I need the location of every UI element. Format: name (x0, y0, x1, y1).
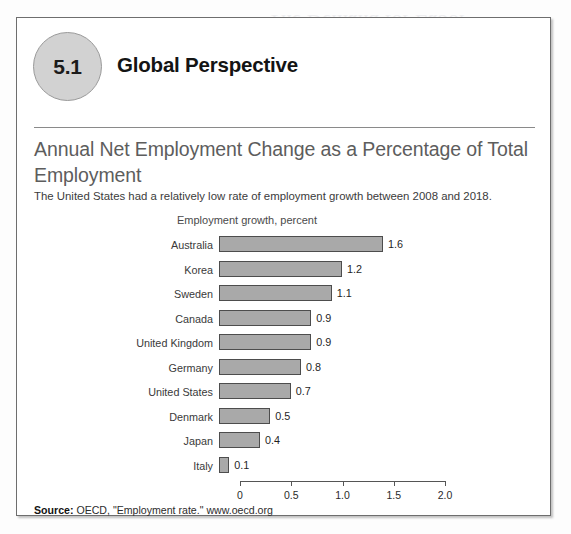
bar (219, 310, 311, 326)
bar-category-label: Denmark (17, 411, 219, 423)
bar-value-label: 0.9 (316, 310, 331, 326)
bar-category-label: United States (17, 386, 219, 398)
bar-value-label: 1.1 (337, 285, 352, 301)
bar-track: 0.8 (219, 356, 509, 381)
bar (219, 334, 311, 350)
x-axis-tick-label: 0 (237, 489, 243, 501)
bar (219, 383, 291, 399)
bar-row: Denmark0.5 (17, 405, 509, 430)
bar-value-label: 1.6 (388, 236, 403, 252)
bar-value-label: 0.8 (306, 359, 321, 375)
bar-row: Japan0.4 (17, 429, 509, 454)
bar-category-label: Japan (17, 435, 219, 447)
x-axis-tick-label: 1.0 (335, 489, 350, 501)
bar (219, 359, 301, 375)
bar-track: 1.2 (219, 258, 509, 283)
source-line: Source: OECD, "Employment rate." www.oec… (34, 504, 273, 516)
bar-value-label: 0.4 (265, 432, 280, 448)
bar-value-label: 0.1 (234, 457, 249, 473)
bar (219, 261, 342, 277)
bar-category-label: Germany (17, 362, 219, 374)
figure-subtitle: The United States had a relatively low r… (34, 189, 539, 204)
chart-axis-label: Employment growth, percent (17, 214, 477, 226)
bar (219, 408, 270, 424)
bar-track: 0.7 (219, 380, 509, 405)
bar-row: Australia1.6 (17, 233, 509, 258)
bar (219, 457, 229, 473)
figure-box: 5.1 Global Perspective Annual Net Employ… (16, 17, 551, 516)
bar-value-label: 0.9 (316, 334, 331, 350)
bar-rows-container: Australia1.6Korea1.2Sweden1.1Canada0.9Un… (17, 233, 509, 478)
bar-category-label: Korea (17, 264, 219, 276)
bar-category-label: Sweden (17, 288, 219, 300)
figure-title: Annual Net Employment Change as a Percen… (34, 136, 539, 188)
bar-row: United Kingdom0.9 (17, 331, 509, 356)
bar-track: 0.5 (219, 405, 509, 430)
bar-value-label: 0.7 (296, 383, 311, 399)
x-axis-tick-label: 2.0 (438, 489, 453, 501)
x-axis-tick (445, 481, 446, 486)
bar-category-label: Australia (17, 239, 219, 251)
x-axis-tick-label: 1.5 (386, 489, 401, 501)
x-axis-tick (240, 481, 241, 486)
bar (219, 236, 383, 252)
bar-track: 0.9 (219, 307, 509, 332)
x-axis-tick (291, 481, 292, 486)
x-axis-tick (343, 481, 344, 486)
bar-row: Sweden1.1 (17, 282, 509, 307)
source-label: Source: (34, 504, 73, 516)
bar-track: 0.4 (219, 429, 509, 454)
header-divider (34, 127, 535, 128)
bar-track: 0.1 (219, 454, 509, 479)
bar-category-label: United Kingdom (17, 337, 219, 349)
bar-row: Canada0.9 (17, 307, 509, 332)
bar-row: United States0.7 (17, 380, 509, 405)
x-axis-tick (394, 481, 395, 486)
bar-track: 1.6 (219, 233, 509, 258)
chapter-badge-number: 5.1 (53, 55, 81, 79)
bar (219, 432, 260, 448)
bar-row: Germany0.8 (17, 356, 509, 381)
bar-row: Italy0.1 (17, 454, 509, 479)
bar-chart: Employment growth, percent Australia1.6K… (17, 214, 550, 476)
bar-category-label: Canada (17, 313, 219, 325)
bar-row: Korea1.2 (17, 258, 509, 283)
bar-value-label: 1.2 (347, 261, 362, 277)
bar-track: 1.1 (219, 282, 509, 307)
x-axis-tick-label: 0.5 (284, 489, 299, 501)
figure-header: 5.1 Global Perspective (17, 18, 550, 104)
bar-value-label: 0.5 (275, 408, 290, 424)
section-heading: Global Perspective (117, 53, 298, 77)
bar-category-label: Italy (17, 460, 219, 472)
bar-track: 0.9 (219, 331, 509, 356)
chapter-badge: 5.1 (33, 32, 102, 101)
bar (219, 285, 332, 301)
source-text: OECD, "Employment rate." www.oecd.org (76, 504, 273, 516)
